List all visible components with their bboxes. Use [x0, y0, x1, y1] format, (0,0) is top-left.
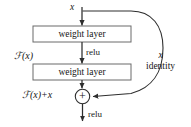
weight-layer-1-label: weight layer: [33, 30, 131, 40]
relu-bottom-label: relu: [88, 110, 102, 119]
residual-block-figure: weight layer weight layer x relu relu ℱ(…: [0, 0, 191, 127]
identity-text-label: identity: [146, 61, 175, 72]
identity-x-label: x: [146, 50, 175, 61]
function-fx-plus-x-label: ℱ(x)+x: [22, 90, 52, 100]
addition-plus-sign: +: [75, 89, 90, 104]
relu-mid-label: relu: [86, 48, 100, 57]
weight-layer-2-label: weight layer: [33, 68, 131, 78]
function-fx-label: ℱ(x): [14, 51, 33, 61]
identity-shortcut-label-group: x identity: [146, 50, 175, 72]
input-x-label: x: [70, 3, 74, 13]
